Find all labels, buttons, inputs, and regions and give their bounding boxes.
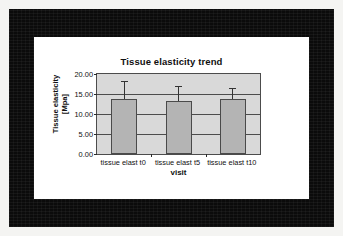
error-bar-cap — [121, 81, 128, 82]
y-axis-tick-label: 15.00 — [75, 90, 94, 99]
y-axis-tick-mark — [94, 94, 97, 95]
error-bar-stem — [178, 86, 179, 101]
error-bar-stem — [232, 88, 233, 99]
x-axis-tick-mark — [151, 154, 152, 157]
x-axis-title: visit — [96, 168, 261, 177]
y-axis-title-line2: [Mpa] — [60, 59, 69, 149]
y-axis-title-line1: Tissue elasticity — [51, 59, 60, 149]
y-axis-tick-label: 5.00 — [79, 130, 93, 139]
error-bar-cap — [175, 86, 182, 87]
y-axis-tick-mark — [94, 134, 97, 135]
page-canvas: Tissue elasticity trend Tissue elasticit… — [0, 0, 343, 236]
y-axis-tick-mark — [94, 114, 97, 115]
y-axis-tick-label: 10.00 — [75, 110, 94, 119]
x-axis-category-label: tissue elast t0 — [96, 158, 150, 167]
x-axis-category-label: tissue elast t10 — [205, 158, 259, 167]
y-axis-tick-label: 0.00 — [79, 150, 93, 159]
y-axis-tick-mark — [94, 154, 97, 155]
chart-panel: Tissue elasticity trend Tissue elasticit… — [34, 37, 309, 199]
bar — [220, 99, 246, 154]
chart-title: Tissue elasticity trend — [34, 56, 309, 67]
x-axis-category-label: tissue elast t5 — [150, 158, 204, 167]
bar — [111, 99, 137, 154]
x-axis-tick-mark — [206, 154, 207, 157]
error-bar-stem — [124, 81, 125, 99]
error-bar-cap — [229, 88, 236, 89]
y-axis-tick-mark — [94, 74, 97, 75]
plot-area: 0.005.0010.0015.0020.00 — [96, 73, 261, 155]
y-axis-title: Tissue elasticity [Mpa] — [51, 59, 69, 149]
bar — [166, 101, 192, 154]
y-axis-tick-label: 20.00 — [75, 70, 94, 79]
